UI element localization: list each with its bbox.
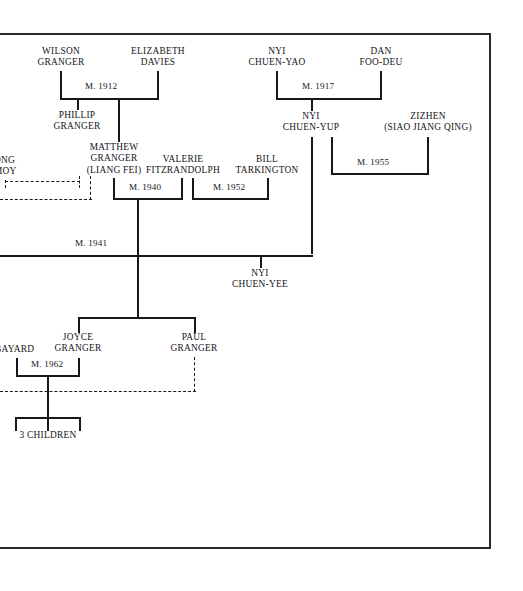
chart-border-bottom [0,547,491,549]
marriage-label-1955: M. 1955 [355,157,391,167]
child-drop-joyce [78,317,80,333]
child-tick-2 [47,417,49,431]
union-bar-1941 [0,255,313,257]
descent-to-siblings [137,255,139,318]
marriage-leg-wilson [60,71,62,99]
person-paul-granger: PAUL GRANGER [149,332,239,355]
person-name-line: PHILLIP [32,110,122,121]
person-zizhen: ZIZHEN (SIAO JIANG QING) [370,111,486,134]
person-name-line: ONG [0,155,54,166]
child-tick-1 [15,417,17,431]
person-name-line: FOO-DEU [336,57,426,68]
person-name-line: JOYCE [33,332,123,343]
dashed-bar-upper [5,181,80,182]
marriage-leg-bill [267,178,269,199]
person-name-line: NYI [266,111,356,122]
person-name-line: NYI [215,268,305,279]
marriage-leg-matthew [113,178,115,199]
person-name-line: BILL [218,154,316,165]
marriage-leg-nyi-chuen-yao [276,71,278,99]
person-nyi-chuen-yao: NYI CHUEN-YAO [232,46,322,69]
person-name-line: CHUEN-YEE [215,279,305,290]
marriage-label-1941: M. 1941 [73,238,109,248]
person-name-line: NYI [232,46,322,57]
marriage-bar-1952 [192,198,269,200]
child-tick-3 [79,417,81,431]
marriage-label-1912: M. 1912 [83,81,119,91]
marriage-leg-bayard [16,358,18,376]
person-name-line: WILSON [16,46,106,57]
marriage-leg-joyce [78,358,80,376]
descent-matthew-to-1941 [137,198,139,256]
person-name-line: (SIAO JIANG QING) [370,122,486,133]
child-drop-nyi-chuen-yup [311,98,313,111]
person-wong-moy: ONG MOY [0,155,54,178]
person-bayard: BAYARD [0,344,53,355]
marriage-label-1917: M. 1917 [300,81,336,91]
person-name-line: ELIZABETH [110,46,206,57]
chart-border-top [0,33,491,35]
chart-border-right [489,33,491,549]
marriage-bar-1917 [276,98,382,100]
descent-to-3-children [47,375,49,418]
person-name-line: BAYARD [0,344,53,355]
person-nyi-chuen-yup: NYI CHUEN-YUP [266,111,356,134]
dashed-bar-lower [0,199,92,200]
marriage-leg-valerie-right [192,178,194,199]
marriage-bar-1940 [113,198,183,200]
person-name-line: MOY [0,166,54,177]
marriage-leg-valerie-left [181,178,183,199]
person-name-line: PAUL [149,332,239,343]
person-three-children: 3 CHILDREN [7,430,89,441]
person-nyi-chuen-yee: NYI CHUEN-YEE [215,268,305,291]
marriage-label-1952: M. 1952 [211,182,247,192]
person-name-line: 3 CHILDREN [7,430,89,441]
person-name-line: MATTHEW [62,142,166,153]
person-name-line: CHUEN-YAO [232,57,322,68]
person-name-line: GRANGER [16,57,106,68]
person-bill-tarkington: BILL TARKINGTON [218,154,316,177]
dashed-leg-matthew [90,176,91,200]
person-elizabeth-davies: ELIZABETH DAVIES [110,46,206,69]
dashed-leg-upper-right [79,176,80,188]
person-phillip-granger: PHILLIP GRANGER [32,110,122,133]
person-dan-foo-deu: DAN FOO-DEU [336,46,426,69]
child-drop-phillip [77,98,79,110]
sibling-bar-joyce-paul [78,317,196,319]
marriage-leg-elizabeth [157,71,159,99]
child-drop-nyi-chuen-yee [260,255,262,268]
person-name-line: GRANGER [32,121,122,132]
marriage-leg-dan-foo-deu [380,71,382,99]
dashed-bar-paul [0,391,196,392]
person-name-line: DAN [336,46,426,57]
person-name-line: GRANGER [149,343,239,354]
person-name-line: ZIZHEN [370,111,486,122]
child-drop-matthew [118,98,120,142]
person-name-line: TARKINGTON [218,165,316,176]
marriage-bar-1912 [60,98,159,100]
marriage-label-1962: M. 1962 [29,359,65,369]
dashed-leg-paul [194,357,195,392]
marriage-label-1940: M. 1940 [127,182,163,192]
person-wilson-granger: WILSON GRANGER [16,46,106,69]
family-tree-chart: WILSON GRANGER ELIZABETH DAVIES M. 1912 … [0,0,523,591]
marriage-leg-zizhen [427,137,429,174]
marriage-bar-1955 [331,173,429,175]
marriage-leg-nyi-chuen-yup [331,137,333,174]
child-drop-paul [194,317,196,333]
person-name-line: DAVIES [110,57,206,68]
person-name-line: CHUEN-YUP [266,122,356,133]
